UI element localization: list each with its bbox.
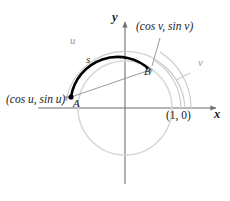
label-point-b: B: [144, 66, 151, 77]
label-coordinate-b: (cos v, sin v): [136, 21, 193, 33]
arc-v-indicator-outer: [160, 52, 191, 108]
label-y-axis: y: [112, 11, 118, 24]
label-arc-u: u: [70, 35, 76, 46]
label-point-one-zero: (1, 0): [166, 110, 191, 122]
unit-circle-figure: (cos u, sin u) (cos v, sin v) (1, 0) x y…: [0, 0, 230, 201]
label-point-a: A: [73, 98, 80, 109]
label-coordinate-a: (cos u, sin u): [6, 94, 65, 106]
label-x-axis: x: [214, 108, 220, 121]
arc-v-tick: [176, 73, 190, 80]
label-arc-s: s: [86, 54, 90, 65]
label-arc-v: v: [198, 57, 203, 68]
